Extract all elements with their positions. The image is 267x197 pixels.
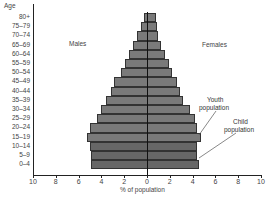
- annotation-leader-lines: [0, 0, 267, 197]
- x-axis-title: % of population: [120, 186, 165, 193]
